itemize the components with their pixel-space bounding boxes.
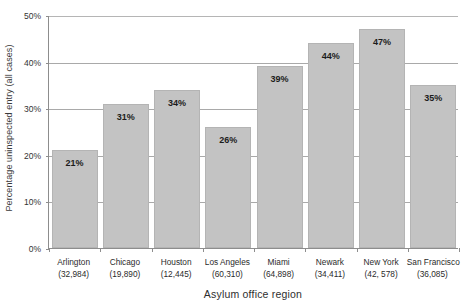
y-tick-label: 10% xyxy=(5,197,41,207)
x-category-label: Arlington(32,984) xyxy=(48,256,99,280)
bar-value-label: 26% xyxy=(206,135,250,145)
bar-value-label: 47% xyxy=(360,37,404,47)
x-category-label: San Francisco(36,085) xyxy=(407,256,458,280)
x-category-count: (60,310) xyxy=(202,268,253,280)
bar: 47% xyxy=(359,29,405,248)
x-category-name: San Francisco xyxy=(407,256,458,268)
bar: 26% xyxy=(205,127,251,248)
x-category-count: (19,890) xyxy=(99,268,150,280)
x-category-name: Houston xyxy=(151,256,202,268)
bar-value-label: 21% xyxy=(53,158,97,168)
plot-area: 0%10%20%30%40%50% 21%31%34%26%39%44%47%3… xyxy=(48,16,458,249)
x-axis-title: Asylum office region xyxy=(48,288,458,300)
x-tick-mark xyxy=(459,248,460,252)
y-tick-label: 30% xyxy=(5,104,41,114)
x-category-name: New York xyxy=(356,256,407,268)
x-tick-mark xyxy=(203,248,204,252)
x-category-name: Newark xyxy=(304,256,355,268)
y-tick-label: 40% xyxy=(5,58,41,68)
bar: 34% xyxy=(154,90,200,248)
x-tick-mark xyxy=(254,248,255,252)
x-axis-category-labels: Arlington(32,984)Chicago(19,890)Houston(… xyxy=(48,256,458,284)
bar: 21% xyxy=(52,150,98,248)
x-category-name: Arlington xyxy=(48,256,99,268)
bar: 44% xyxy=(308,43,354,248)
bar-value-label: 31% xyxy=(104,112,148,122)
x-category-label: New York(42, 578) xyxy=(356,256,407,280)
bar-value-label: 35% xyxy=(411,93,455,103)
y-tick-label: 50% xyxy=(5,11,41,21)
x-category-count: (32,984) xyxy=(48,268,99,280)
x-category-label: Chicago(19,890) xyxy=(99,256,150,280)
x-category-count: (42, 578) xyxy=(356,268,407,280)
x-tick-mark xyxy=(357,248,358,252)
bar-chart: Percentage uninspected entry (all cases)… xyxy=(0,0,463,308)
bar-value-label: 39% xyxy=(258,74,302,84)
bar-value-label: 34% xyxy=(155,98,199,108)
y-tick-label: 0% xyxy=(5,244,41,254)
x-tick-mark xyxy=(152,248,153,252)
bar: 35% xyxy=(410,85,456,248)
bars-group: 21%31%34%26%39%44%47%35% xyxy=(49,16,458,248)
x-tick-mark xyxy=(408,248,409,252)
x-tick-mark xyxy=(100,248,101,252)
x-tick-mark xyxy=(305,248,306,252)
x-category-name: Miami xyxy=(253,256,304,268)
x-category-label: Los Angeles(60,310) xyxy=(202,256,253,280)
bar: 31% xyxy=(103,104,149,248)
x-tick-mark xyxy=(49,248,50,252)
x-category-label: Houston(12,445) xyxy=(151,256,202,280)
x-category-count: (12,445) xyxy=(151,268,202,280)
x-category-label: Miami(64,898) xyxy=(253,256,304,280)
bar: 39% xyxy=(257,66,303,248)
bar-value-label: 44% xyxy=(309,51,353,61)
x-category-name: Chicago xyxy=(99,256,150,268)
x-category-count: (36,085) xyxy=(407,268,458,280)
x-category-count: (64,898) xyxy=(253,268,304,280)
y-tick-label: 20% xyxy=(5,151,41,161)
x-category-label: Newark(34,411) xyxy=(304,256,355,280)
x-category-count: (34,411) xyxy=(304,268,355,280)
x-category-name: Los Angeles xyxy=(202,256,253,268)
y-axis-title: Percentage uninspected entry (all cases) xyxy=(2,3,16,253)
